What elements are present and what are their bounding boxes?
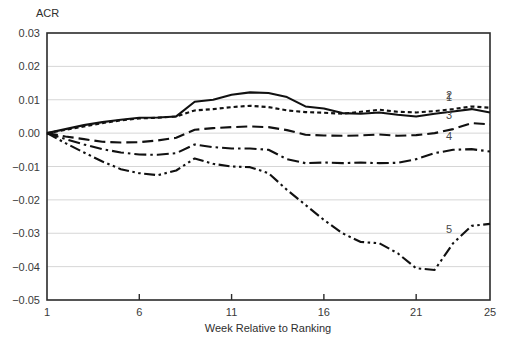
y-tick-label: 0.02 <box>19 60 40 72</box>
x-tick-label: 21 <box>410 306 422 318</box>
y-tick-label: −0.05 <box>12 294 40 306</box>
series-end-label-5: 5 <box>446 223 452 235</box>
y-tick-label: −0.03 <box>12 227 40 239</box>
y-tick-label: 0.00 <box>19 127 40 139</box>
y-tick-label: −0.04 <box>12 261 40 273</box>
y-tick-label: −0.02 <box>12 194 40 206</box>
x-tick-label: 25 <box>484 306 496 318</box>
y-tick-label: −0.01 <box>12 161 40 173</box>
x-tick-label: 1 <box>44 306 50 318</box>
chart-background <box>0 0 510 343</box>
series-end-label-4: 4 <box>446 130 452 142</box>
y-tick-label: 0.03 <box>19 27 40 39</box>
y-tick-label: 0.01 <box>19 94 40 106</box>
x-tick-label: 16 <box>318 306 330 318</box>
x-tick-label: 11 <box>226 306 237 318</box>
x-tick-label: 6 <box>136 306 142 318</box>
series-end-label-2: 2 <box>446 89 452 101</box>
series-end-label-3: 3 <box>446 109 452 121</box>
chart-canvas: 0.030.020.010.00−0.01−0.02−0.03−0.04−0.0… <box>0 0 510 343</box>
x-axis-title: Week Relative to Ranking <box>205 322 331 334</box>
acr-line-chart: 0.030.020.010.00−0.01−0.02−0.03−0.04−0.0… <box>0 0 510 343</box>
y-axis-caption: ACR <box>36 7 59 19</box>
